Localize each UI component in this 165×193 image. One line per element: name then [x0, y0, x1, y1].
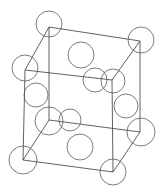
atom-corner-bottom-back-right: [127, 118, 155, 146]
atom-face-bottom: [67, 134, 93, 160]
edge-top-front-left-to-top-front-right: [25, 70, 112, 80]
atom-face-right: [114, 94, 138, 118]
atoms: [9, 11, 155, 185]
atom-face-left: [24, 83, 48, 107]
atom-face-back-lower: [59, 109, 81, 131]
atom-face-top: [68, 42, 94, 68]
edge-top-front-right-to-bottom-front-right: [112, 80, 113, 172]
cell-edges: [23, 27, 140, 172]
unit-cell-diagram: [0, 0, 165, 193]
edge-bottom-back-right-to-bottom-front-right: [113, 132, 140, 172]
atom-face-front-top-edge: [83, 68, 107, 92]
edge-top-back-right-to-top-front-right: [112, 41, 140, 80]
edge-top-back-left-to-top-back-right: [49, 27, 140, 41]
